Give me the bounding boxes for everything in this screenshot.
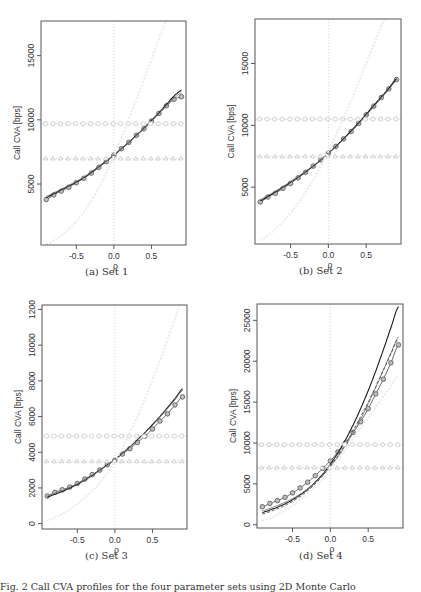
triangle-marker (149, 459, 153, 463)
y-tick-label: 5000 (240, 177, 250, 196)
diamond-marker (112, 434, 116, 438)
triangle-marker (401, 154, 405, 158)
diamond-marker (180, 434, 184, 438)
triangle-marker (343, 466, 347, 470)
triangle-marker (156, 156, 160, 160)
triangle-marker (288, 154, 292, 158)
triangle-marker (272, 154, 276, 158)
diamond-marker (82, 434, 86, 438)
diamond-marker (58, 122, 62, 126)
triangle-marker (356, 154, 360, 158)
triangle-marker (97, 459, 101, 463)
diamond-marker (305, 443, 309, 447)
triangle-marker (127, 459, 131, 463)
diamond-marker (363, 117, 367, 121)
diamond-marker (335, 443, 339, 447)
chart-panel-c: -0.50.00.5ρ02000400060008000100001200Cal… (13, 297, 191, 555)
caption-c: (c) Set 3 (85, 550, 128, 561)
x-tick-label: -0.5 (70, 535, 85, 545)
diamond-marker (142, 434, 146, 438)
y-tick-label: 10000 (242, 431, 252, 455)
triangle-marker (141, 156, 145, 160)
diamond-marker (119, 434, 123, 438)
x-tick-label: -0.5 (283, 250, 298, 260)
diamond-marker (257, 117, 261, 121)
monte-carlo-marker (44, 197, 49, 202)
diamond-marker (148, 122, 152, 126)
chart-panel-b: -0.50.00.5ρ50001000015000Call CVA [bps] (226, 0, 405, 270)
caption-b: (b) Set 2 (299, 265, 343, 276)
diamond-marker (171, 122, 175, 126)
y-tick-label: 10000 (27, 333, 37, 357)
triangle-marker (44, 459, 48, 463)
diamond-marker (274, 443, 278, 447)
monte-carlo-marker (389, 361, 394, 366)
y-tick-label: 4000 (27, 443, 37, 462)
monte-carlo-marker (268, 501, 273, 506)
caption-a: (a) Set 1 (85, 266, 128, 277)
diamond-marker (149, 434, 153, 438)
triangle-marker (157, 459, 161, 463)
triangle-marker (171, 156, 175, 160)
diamond-marker (96, 122, 100, 126)
monte-carlo-marker (165, 412, 170, 417)
diamond-marker (312, 443, 316, 447)
monte-carlo-marker (173, 403, 178, 408)
x-tick-label: 0.0 (108, 251, 120, 261)
diamond-marker (356, 117, 360, 121)
diamond-marker (265, 117, 269, 121)
y-axis-label: Call CVA [bps] (12, 106, 22, 160)
monte-carlo-marker (260, 504, 265, 509)
x-tick-label: 0.5 (146, 251, 158, 261)
diamond-marker (156, 122, 160, 126)
triangle-marker (371, 154, 375, 158)
diamond-marker (179, 122, 183, 126)
triangle-marker (164, 156, 168, 160)
triangle-marker (257, 154, 261, 158)
triangle-marker (280, 154, 284, 158)
diamond-marker (290, 443, 294, 447)
x-tick-label: 0.5 (360, 250, 372, 260)
x-tick-label: 0.5 (362, 534, 374, 544)
y-tick-label: 10000 (240, 113, 250, 137)
diamond-marker (288, 117, 292, 121)
diamond-marker (343, 443, 347, 447)
diamond-marker (303, 117, 307, 121)
diamond-marker (295, 117, 299, 121)
diamond-marker (89, 434, 93, 438)
diamond-marker (118, 122, 122, 126)
diamond-marker (67, 434, 71, 438)
monte-carlo-marker (373, 392, 378, 397)
diamond-marker (74, 434, 78, 438)
diamond-marker (44, 434, 48, 438)
triangle-marker (290, 466, 294, 470)
diamond-marker (59, 434, 63, 438)
triangle-marker (126, 156, 130, 160)
x-tick-label: 0.0 (109, 535, 121, 545)
diamond-marker (297, 443, 301, 447)
triangle-marker (119, 459, 123, 463)
triangle-marker (82, 459, 86, 463)
triangle-marker (186, 156, 190, 160)
diamond-marker (52, 434, 56, 438)
triangle-marker (179, 156, 183, 160)
triangle-marker (363, 154, 367, 158)
triangle-marker (312, 466, 316, 470)
y-tick-label: 0 (27, 521, 37, 526)
triangle-marker (380, 466, 384, 470)
triangle-marker (148, 156, 152, 160)
triangle-marker (333, 154, 337, 158)
triangle-marker (388, 466, 392, 470)
x-tick-label: 0.0 (322, 250, 334, 260)
triangle-marker (282, 466, 286, 470)
diamond-marker (365, 443, 369, 447)
diamond-marker (320, 443, 324, 447)
diamond-marker (386, 117, 390, 121)
triangle-marker (348, 154, 352, 158)
monte-carlo-marker (180, 395, 185, 400)
diamond-marker (310, 117, 314, 121)
y-tick-label: 15000 (242, 390, 252, 414)
triangle-marker (396, 466, 400, 470)
triangle-marker (96, 156, 100, 160)
triangle-marker (133, 156, 137, 160)
